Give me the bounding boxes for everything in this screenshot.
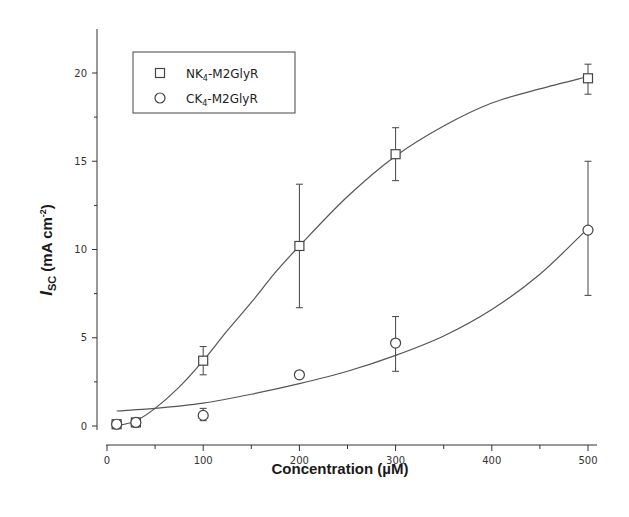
legend-label: CK4-M2GlyR [186,92,258,108]
x-tick-label: 500 [578,455,597,466]
square-marker [584,74,593,83]
legend-label: NK4-M2GlyR [186,67,258,83]
y-tick-label: 20 [74,68,87,79]
fit-curve-circle [117,228,588,411]
circle-marker [583,225,593,235]
fit-curves [117,77,588,426]
y-tick-label: 0 [81,421,87,432]
x-tick-label: 100 [194,455,213,466]
circle-marker [131,417,141,427]
fit-curve-square [117,77,588,426]
circle-marker [391,338,401,348]
legend: NK4-M2GlyRCK4-M2GlyR [133,52,295,113]
y-axis-title: ISC (mA cm-2) [37,204,58,296]
square-marker [199,356,208,365]
y-tick-label: 15 [74,156,87,167]
data-points [112,64,593,429]
y-axis: 05101520 [74,29,97,432]
y-tick-label: 5 [81,332,87,343]
y-tick-label: 10 [74,244,87,255]
legend-square-icon [156,69,165,78]
x-tick-label: 0 [104,455,110,466]
square-marker [295,241,304,250]
circle-marker [294,370,304,380]
circle-marker [198,410,208,420]
x-tick-label: 400 [482,455,501,466]
circle-marker [112,419,122,429]
dose-response-chart: 05101520 0100200300400500 Concentration … [0,0,629,517]
square-marker [391,150,400,159]
legend-circle-icon [155,93,165,103]
x-axis-title: Concentration (µM) [272,460,409,477]
